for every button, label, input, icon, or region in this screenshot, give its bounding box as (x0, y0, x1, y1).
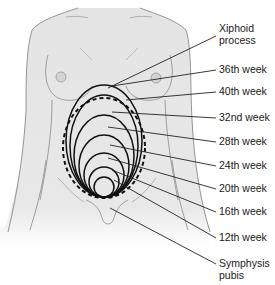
label-xiphoid-process: Xiphoid process (219, 22, 256, 46)
label-16th-week: 16th week (219, 205, 267, 217)
label-32nd-week: 32nd week (219, 111, 270, 123)
label-36th-week: 36th week (219, 63, 267, 75)
label-symphysis-pubis: Symphysis pubis (219, 257, 270, 281)
label-line: Symphysis (219, 257, 270, 269)
label-28th-week: 28th week (219, 135, 267, 147)
label-40th-week: 40th week (219, 85, 267, 97)
label-24th-week: 24th week (219, 159, 267, 171)
torso-outline (0, 8, 210, 285)
label-line: process (219, 34, 256, 46)
label-20th-week: 20th week (219, 182, 267, 194)
label-line: Xiphoid (219, 22, 256, 34)
label-line: pubis (219, 269, 270, 281)
label-12th-week: 12th week (219, 231, 267, 243)
